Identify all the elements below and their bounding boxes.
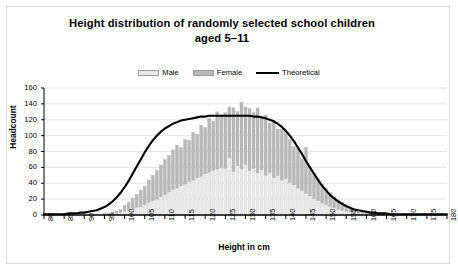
x-tick-label: 130 (249, 209, 257, 221)
bar-female (188, 140, 191, 181)
bar-female (131, 198, 134, 208)
bar-female (216, 112, 219, 169)
x-tick-label: 85 (67, 213, 75, 221)
bar-female (276, 129, 279, 175)
bar-male (204, 174, 207, 215)
bar-male (321, 203, 324, 215)
bar-male (304, 194, 307, 215)
bar-female (119, 209, 122, 212)
bar-female (143, 186, 146, 204)
bar-male (284, 178, 287, 215)
bar-female (300, 159, 303, 191)
bar-female (288, 140, 291, 183)
x-tick-label: 135 (269, 209, 277, 221)
x-tick-label: 115 (188, 209, 196, 221)
x-tick-label: 180 (450, 209, 458, 221)
bar-male (317, 201, 320, 215)
bar-female (172, 150, 175, 190)
bar-male (341, 210, 344, 215)
bar-female (176, 145, 179, 188)
y-tick-label: 80 (11, 148, 37, 156)
bar-female (280, 129, 283, 180)
x-tick-label: 125 (229, 209, 237, 221)
bar-female (292, 147, 295, 185)
y-tick-label: 140 (11, 100, 37, 108)
bar-male (196, 178, 199, 215)
x-tick-label: 105 (148, 209, 156, 221)
y-tick-label: 0 (11, 211, 37, 219)
bar-female (224, 113, 227, 169)
y-tick-label: 20 (11, 195, 37, 203)
bar-female (236, 112, 239, 166)
x-tick-label: 80 (47, 213, 55, 221)
x-tick-label: 165 (390, 209, 398, 221)
bar-male (236, 166, 239, 215)
x-tick-label: 175 (430, 209, 438, 221)
x-tick-label: 140 (289, 209, 297, 221)
bar-female (296, 148, 299, 188)
plot-area: Headcount Height in cm 02040608010012014… (0, 0, 458, 275)
bar-female (260, 117, 263, 169)
bar-male (260, 170, 263, 215)
bar-male (228, 158, 231, 215)
bar-male (220, 167, 223, 215)
bar-female (200, 125, 203, 176)
bar-female (248, 109, 251, 171)
bar-female (284, 131, 287, 179)
y-tick-label: 40 (11, 179, 37, 187)
bar-male (139, 206, 142, 215)
bar-female (192, 132, 195, 180)
bar-male (280, 180, 283, 215)
bar-female (204, 128, 207, 174)
plot-svg (0, 0, 458, 275)
bar-female (212, 121, 215, 170)
bar-male (159, 197, 162, 215)
x-tick-label: 155 (350, 209, 358, 221)
bar-male (163, 194, 166, 215)
bar-female (228, 107, 231, 158)
x-tick-label: 150 (329, 209, 337, 221)
x-tick-label: 145 (309, 209, 317, 221)
bar-female (268, 123, 271, 172)
bar-female (103, 213, 106, 214)
bar-male (180, 186, 183, 215)
bar-female (304, 148, 307, 194)
bar-female (163, 159, 166, 194)
y-tick-label: 60 (11, 163, 37, 171)
bar-male (264, 175, 267, 215)
bar-female (159, 165, 162, 197)
bar-female (232, 108, 235, 172)
x-tick-label: 160 (370, 209, 378, 221)
x-tick-label: 120 (209, 209, 217, 221)
x-tick-label: 90 (88, 213, 96, 221)
bar-female (272, 121, 275, 178)
y-tick-label: 100 (11, 132, 37, 140)
bar-female (196, 134, 199, 178)
bar-female (155, 171, 158, 200)
bar-female (208, 118, 211, 172)
bar-female (151, 175, 154, 200)
bar-female (135, 194, 138, 207)
bar-male (200, 176, 203, 215)
bar-male (224, 168, 227, 215)
bar-male (337, 209, 340, 215)
bar-male (244, 164, 247, 215)
bar-female (139, 190, 142, 206)
bar-series-female (103, 102, 384, 215)
bar-female (167, 155, 170, 192)
bar-male (240, 169, 243, 215)
y-tick-label: 160 (11, 84, 37, 92)
bar-female (252, 113, 255, 169)
bar-male (300, 190, 303, 215)
x-tick-label: 110 (168, 209, 176, 221)
bar-female (220, 115, 223, 167)
bar-female (123, 205, 126, 211)
bar-female (147, 180, 150, 202)
x-tick-label: 100 (128, 209, 136, 221)
bar-female (240, 102, 243, 169)
bar-female (309, 167, 312, 196)
x-tick-label: 170 (410, 209, 418, 221)
bar-male (143, 205, 146, 215)
bar-female (184, 140, 187, 184)
bar-female (264, 115, 267, 175)
